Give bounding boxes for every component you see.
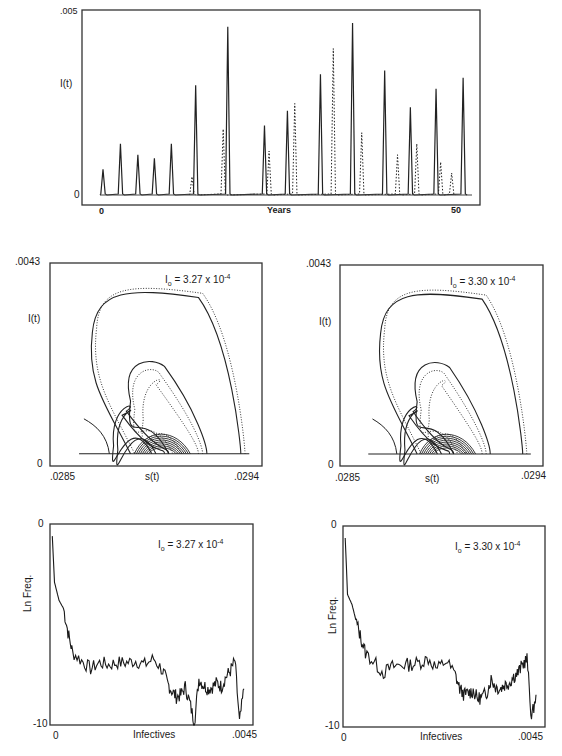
orbit-loop	[117, 410, 165, 465]
histogram-left-frame	[50, 524, 253, 725]
orbit-arc	[372, 419, 396, 454]
plot-canvas	[0, 0, 562, 756]
frequency-line	[52, 536, 244, 725]
frequency-line	[345, 538, 536, 719]
orbit-arc	[84, 419, 109, 454]
time-series-frame	[82, 10, 480, 205]
orbit-loop	[404, 411, 450, 465]
orbit-loop	[428, 381, 482, 454]
series-solid-line	[100, 23, 467, 195]
histogram-right-frame	[343, 526, 545, 727]
